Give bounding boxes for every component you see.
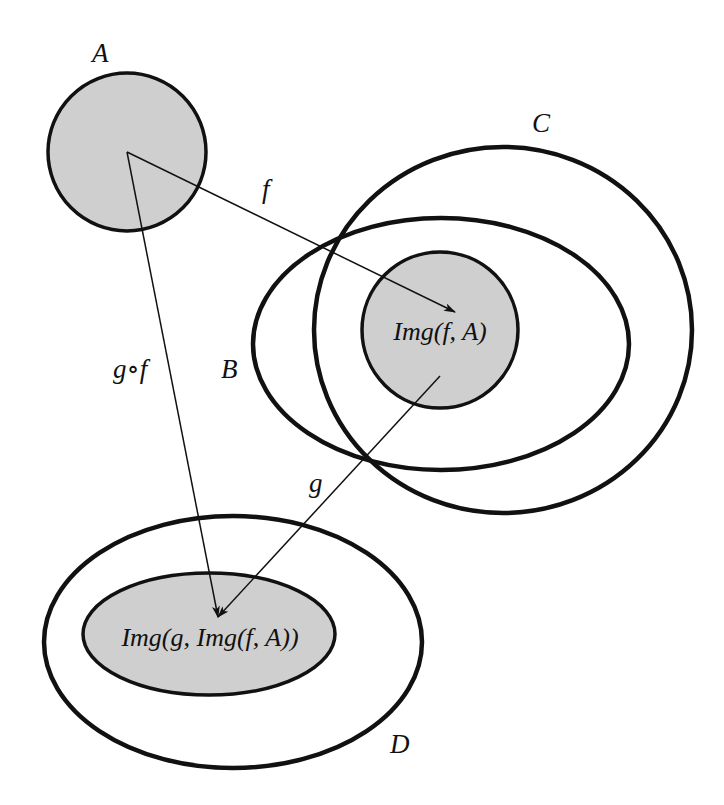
arrow-gof [127, 152, 218, 617]
arrow-f [127, 152, 455, 312]
label-b: B [221, 354, 238, 384]
set-diagram: A C B D f g g∘f Img(f, A) Img(g, Img(f, … [0, 0, 724, 805]
label-arrow-gof: g∘f [113, 354, 151, 384]
label-arrow-f: f [262, 174, 273, 204]
label-arrow-g: g [309, 468, 323, 498]
label-d: D [389, 729, 410, 759]
arrow-g [218, 376, 440, 617]
label-c: C [532, 108, 551, 138]
label-image-g-image-f-a: Img(g, Img(f, A)) [120, 623, 298, 652]
label-a: A [90, 38, 109, 68]
label-image-f-a: Img(f, A) [392, 317, 486, 346]
